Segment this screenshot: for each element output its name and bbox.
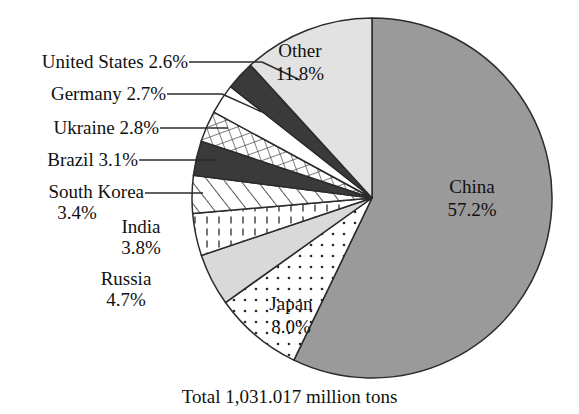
callout-label-russia: Russia 4.7% <box>78 268 174 311</box>
callout-text-brazil: Brazil 3.1% <box>47 149 138 170</box>
slice-label-china-name: China <box>449 176 495 197</box>
callout-text-south-korea: South Korea <box>10 181 144 202</box>
callout-text-india: India <box>96 216 186 237</box>
callout-text-ukraine: Ukraine 2.8% <box>53 117 159 138</box>
pie-chart-figure: China 57.2% Other 11.8% Japan 8.0% Unite… <box>0 0 579 414</box>
callout-text-germany: Germany 2.7% <box>51 83 166 104</box>
total-caption: Total 1,031.017 million tons <box>0 386 579 408</box>
slice-label-other-name: Other <box>278 40 322 61</box>
callout-value-india: 3.8% <box>96 237 186 258</box>
pie-slices-group <box>192 18 552 378</box>
callout-label-india: India 3.8% <box>96 216 186 259</box>
slice-label-japan-value: 8.0% <box>271 316 311 337</box>
callout-text-united-states: United States 2.6% <box>42 51 188 72</box>
callout-label-germany: Germany 2.7% <box>10 83 166 104</box>
callout-label-ukraine: Ukraine 2.8% <box>10 117 159 138</box>
callout-value-russia: 4.7% <box>78 289 174 310</box>
slice-label-china-value: 57.2% <box>447 199 496 220</box>
callout-label-brazil: Brazil 3.1% <box>10 149 138 170</box>
slice-label-other-value: 11.8% <box>276 63 325 84</box>
callout-text-russia: Russia <box>78 268 174 289</box>
slice-label-japan-name: Japan <box>269 293 313 314</box>
callout-label-united-states: United States 2.6% <box>10 51 188 72</box>
